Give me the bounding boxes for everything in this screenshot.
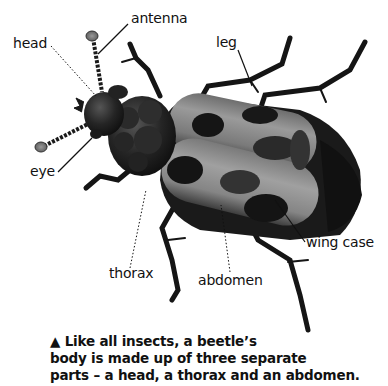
- caption: ▲ Like all insects, a beetle’s body is m…: [50, 333, 388, 384]
- antenna-upper: [86, 31, 102, 92]
- label-thorax: thorax: [109, 265, 153, 281]
- caption-line-2: body is made up of three separate: [50, 350, 388, 367]
- eye: [90, 129, 102, 139]
- label-antenna: antenna: [131, 10, 187, 26]
- beetle-diagram: antenna head leg eye thorax abdomen wing…: [0, 0, 388, 386]
- label-eye: eye: [30, 163, 55, 179]
- wing-case: [155, 88, 362, 240]
- caption-line-1: ▲ Like all insects, a beetle’s: [50, 333, 388, 350]
- label-wing-case: wing case: [306, 234, 374, 250]
- beetle-illustration: [0, 0, 388, 386]
- label-head: head: [13, 35, 47, 51]
- caption-line-3: parts – a head, a thorax and an abdomen.: [50, 367, 388, 384]
- triangle-up-icon: ▲: [50, 333, 60, 349]
- label-abdomen: abdomen: [198, 272, 263, 288]
- label-leg: leg: [216, 34, 237, 50]
- antenna-lower: [35, 124, 88, 152]
